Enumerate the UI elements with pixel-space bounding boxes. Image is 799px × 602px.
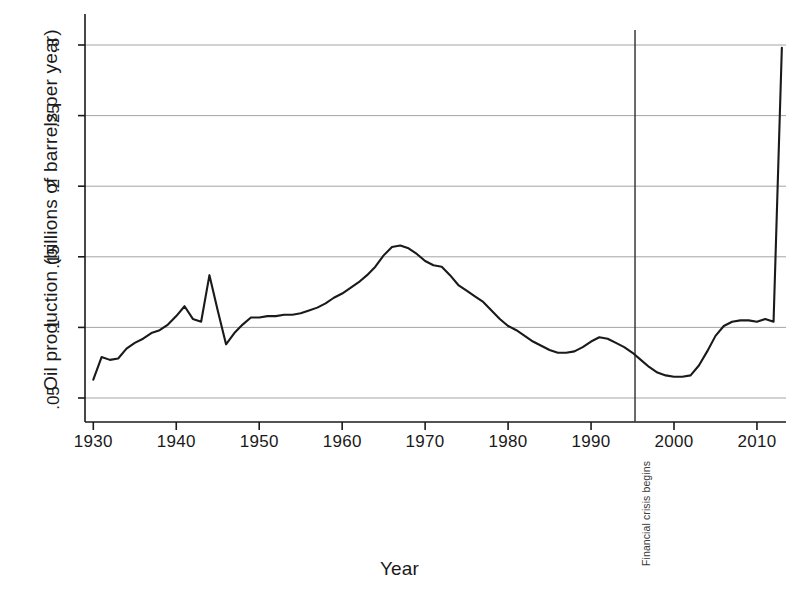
- x-tick-label: 1950: [224, 432, 294, 452]
- y-tick-label: .2: [44, 164, 64, 208]
- x-tick-label: 1990: [556, 432, 626, 452]
- x-tick-label: 1970: [390, 432, 460, 452]
- x-tick-marks: [93, 422, 757, 430]
- x-tick-label: 1960: [307, 432, 377, 452]
- y-tick-marks: [78, 45, 85, 398]
- financial-crisis-label: Financial crisis begins: [640, 461, 652, 566]
- x-tick-label: 1980: [473, 432, 543, 452]
- x-tick-label: 1930: [58, 432, 128, 452]
- y-tick-label: .25: [44, 94, 64, 138]
- gridlines: [85, 45, 786, 398]
- y-tick-label: .1: [44, 305, 64, 349]
- plot-area: [0, 0, 799, 602]
- y-tick-label: .05: [44, 376, 64, 420]
- chart-figure: Oil production (billions of barrels per …: [0, 0, 799, 602]
- y-tick-label: .3: [44, 23, 64, 67]
- x-axis-title: Year: [0, 558, 799, 580]
- x-tick-label: 2000: [639, 432, 709, 452]
- y-tick-label: .15: [44, 235, 64, 279]
- x-tick-label: 1940: [141, 432, 211, 452]
- x-tick-label: 2010: [722, 432, 792, 452]
- oil-production-line: [93, 48, 782, 380]
